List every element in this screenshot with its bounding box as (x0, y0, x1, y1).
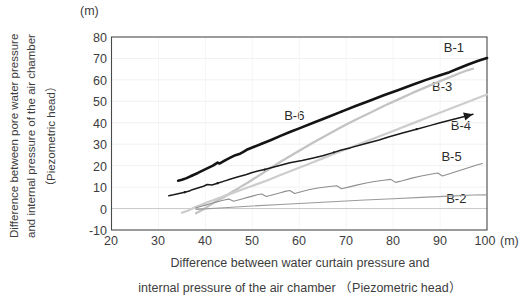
chart-container: (m) 80 70 60 50 40 30 20 10 0 -10 20 30 … (0, 0, 531, 300)
plot-area (0, 0, 531, 300)
